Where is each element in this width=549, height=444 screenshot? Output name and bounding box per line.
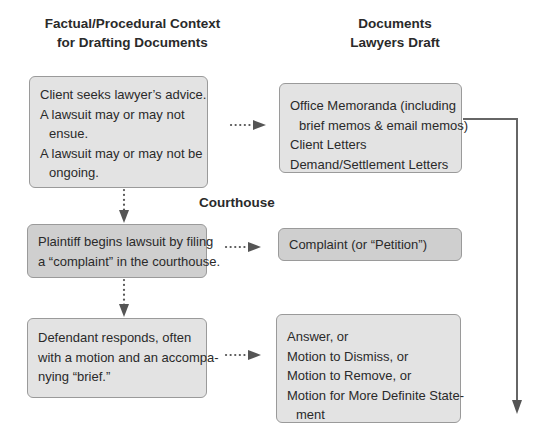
box-line: with a motion and an accompa- [38,348,196,368]
box-line: nying “brief.” [38,367,196,387]
dotted-arrow-down-icon [119,280,129,317]
client-advice-box: Client seeks lawyer’s advice. A lawsuit … [29,76,208,188]
plaintiff-filing-box: Plaintiff begins lawsuit by filing a “co… [27,224,207,278]
dotted-arrow-right-icon [226,242,261,252]
box-line: Client seeks lawyer’s advice. [40,85,197,105]
header-line: Documents [325,14,465,33]
courthouse-label: Courthouse [199,195,275,210]
box-line: Client Letters [290,135,451,155]
box-line: A lawsuit may or may not [40,105,197,125]
dotted-arrow-right-icon [226,350,261,360]
box-line: Plaintiff begins lawsuit by filing [38,232,196,252]
box-line: Office Memoranda (including [290,96,451,116]
defendant-documents-box: Answer, or Motion to Dismiss, or Motion … [276,314,461,423]
defendant-response-box: Defendant responds, often with a motion … [27,318,207,398]
box-line: Motion for More Definite State- [287,386,450,406]
box-line: ensue. [40,124,197,144]
flow-line-arrow-down-icon [463,119,522,414]
header-line: for Drafting Documents [30,33,235,52]
context-column-header: Factual/Procedural Context for Drafting … [30,14,235,52]
box-line: Motion to Dismiss, or [287,347,450,367]
box-line: brief memos & email memos) [290,116,451,136]
box-line: ment [287,405,450,425]
complaint-box: Complaint (or “Petition”) [278,228,462,261]
dotted-arrow-down-icon [119,190,129,223]
office-memoranda-box: Office Memoranda (including brief memos … [279,83,462,173]
box-line: Motion to Remove, or [287,366,450,386]
box-line: Defendant responds, often [38,328,196,348]
header-line: Lawyers Draft [325,33,465,52]
box-line: A lawsuit may or may not be [40,144,197,164]
dotted-arrow-right-icon [231,120,266,130]
box-line: Demand/Settlement Letters [290,155,451,175]
box-line: Answer, or [287,327,450,347]
box-line: a “complaint” in the courthouse. [38,252,196,272]
header-line: Factual/Procedural Context [30,14,235,33]
box-line: Complaint (or “Petition”) [289,235,451,255]
box-line: ongoing. [40,163,197,183]
documents-column-header: Documents Lawyers Draft [325,14,465,52]
